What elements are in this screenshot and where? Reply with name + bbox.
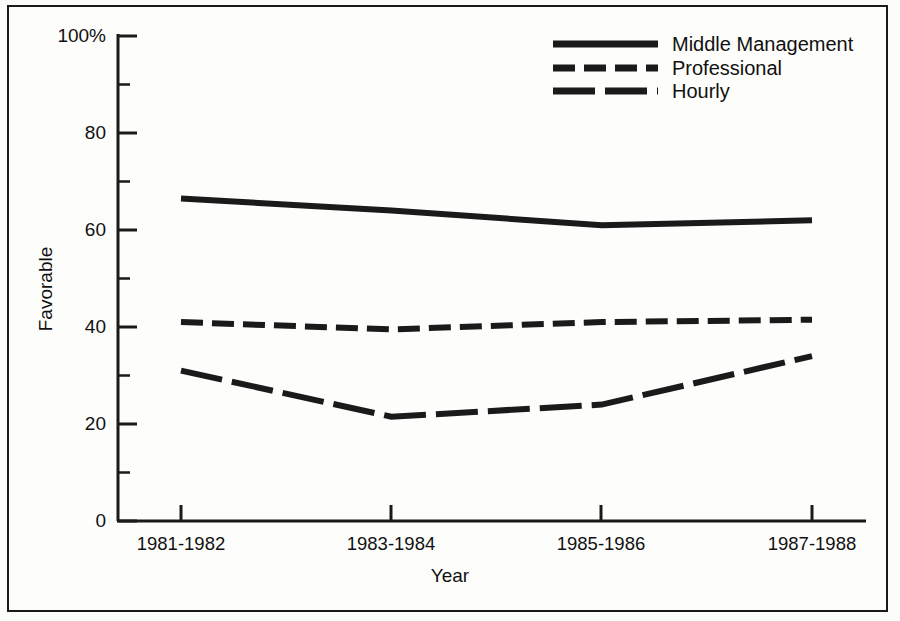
y-tick-label-20: 20: [28, 413, 106, 435]
x-tick-label-1987-1988: 1987-1988: [768, 533, 856, 555]
axis-lines: [117, 34, 866, 521]
y-tick-label-100: 100%: [28, 25, 106, 47]
x-axis-label: Year: [0, 565, 900, 587]
series-line-hourly: [181, 356, 812, 417]
series-line-middle-management: [181, 199, 812, 226]
x-tick-label-1981-1982: 1981-1982: [137, 533, 225, 555]
x-major-ticks: [181, 505, 812, 521]
series-line-professional: [181, 320, 812, 330]
legend-label-middle-management: Middle Management: [672, 33, 853, 56]
legend-label-hourly: Hourly: [672, 80, 730, 103]
series-layer: [181, 199, 812, 417]
legend-swatches: [553, 44, 658, 91]
x-tick-label-1983-1984: 1983-1984: [347, 533, 435, 555]
y-axis-label: Favorable: [35, 229, 57, 349]
x-tick-label-1985-1986: 1985-1986: [557, 533, 645, 555]
y-minor-ticks: [118, 85, 130, 473]
chart-figure: 100% 80 60 40 20 0 Favorable 1981-1982 1…: [0, 0, 900, 621]
y-tick-label-80: 80: [28, 122, 106, 144]
y-tick-label-0: 0: [28, 510, 106, 532]
line-chart-plot: [0, 0, 900, 621]
legend-label-professional: Professional: [672, 57, 782, 80]
